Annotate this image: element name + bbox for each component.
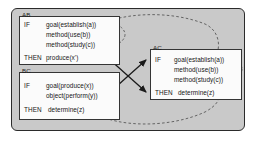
rule-bc-action: determine(z): [48, 106, 84, 113]
rule-ac-then-keyword: THEN: [155, 89, 173, 96]
rule-ab-then-keyword: THEN: [24, 54, 42, 61]
rule-label-bc: BC: [22, 67, 31, 74]
rule-ab-condition-3: method(study(c)): [46, 41, 95, 48]
rule-ac-action: determine(z): [178, 89, 214, 96]
rule-ab-condition-2: method(use(b)): [46, 31, 90, 38]
rule-ac-condition-2: method(use(b)): [174, 66, 218, 73]
rule-ab-if-keyword: IF: [24, 21, 30, 28]
rule-bc-condition-1: goal(produce(x)): [46, 82, 94, 89]
rule-bc-if-keyword: IF: [24, 82, 30, 89]
rule-ab-condition-1: goal(establish(a)): [46, 21, 96, 28]
rule-label-ab: AB: [22, 11, 31, 18]
rule-bc-then-keyword: THEN: [24, 106, 42, 113]
rule-ac-if-keyword: IF: [155, 56, 161, 63]
rule-ab-action: produce(x'): [46, 54, 78, 61]
rule-bc-condition-2: object(perform(y)): [46, 92, 98, 99]
diagram-canvas: AB IF goal(establish(a)) method(use(b)) …: [0, 0, 260, 144]
rule-ac-condition-3: method(study(c)): [174, 76, 223, 83]
rule-ac-condition-1: goal(establish(a)): [174, 56, 224, 63]
rule-label-ac: AC: [153, 44, 162, 51]
